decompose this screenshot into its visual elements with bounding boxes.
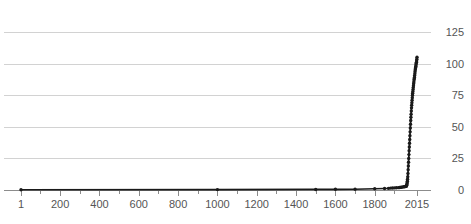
y-axis-tick-label: 50 — [452, 121, 464, 133]
x-axis-tick-label: 2015 — [405, 198, 429, 210]
x-axis-tick-label: 1600 — [323, 198, 347, 210]
data-point-marker — [216, 188, 219, 191]
data-point-marker — [408, 145, 411, 148]
data-point-marker — [407, 149, 410, 152]
data-point-marker — [353, 188, 356, 191]
data-point-marker — [409, 112, 412, 115]
data-point-marker — [408, 134, 411, 137]
data-point-marker — [407, 160, 410, 163]
data-point-marker — [409, 119, 412, 122]
chart-container: 0255075100125 12004006008001000120014001… — [0, 0, 471, 224]
y-axis-tick-label: 100 — [446, 58, 464, 70]
x-axis-tick-label: 400 — [90, 198, 108, 210]
data-series-line — [21, 57, 417, 189]
line-chart: 0255075100125 12004006008001000120014001… — [0, 0, 471, 224]
data-point-marker — [373, 187, 376, 190]
x-axis-tick-label: 1800 — [362, 198, 386, 210]
x-axis-tick-label: 200 — [51, 198, 69, 210]
y-axis-tick-label: 125 — [446, 26, 464, 38]
x-axis-tick-label: 1400 — [284, 198, 308, 210]
x-axis-tick-label: 1 — [18, 198, 24, 210]
data-point-marker — [406, 172, 409, 175]
data-point-marker — [408, 138, 411, 141]
data-point-marker — [334, 188, 337, 191]
y-axis-tick-label: 25 — [452, 152, 464, 164]
x-axis-tick-label: 800 — [169, 198, 187, 210]
x-axis-tick-label: 1000 — [205, 198, 229, 210]
data-point-marker — [406, 168, 409, 171]
data-point-marker — [406, 175, 409, 178]
data-point-marker — [407, 157, 410, 160]
data-point-markers-group — [19, 56, 418, 192]
data-point-marker — [415, 56, 418, 59]
data-point-marker — [407, 153, 410, 156]
data-point-marker — [409, 126, 412, 129]
y-axis-tick-label: 75 — [452, 89, 464, 101]
data-point-marker — [407, 164, 410, 167]
data-point-marker — [409, 116, 412, 119]
data-series-group — [21, 57, 417, 189]
data-point-marker — [408, 130, 411, 133]
x-axis-tick-label: 1200 — [245, 198, 269, 210]
data-point-marker — [409, 123, 412, 126]
data-point-marker — [383, 187, 386, 190]
y-axis-tick-labels-group: 0255075100125 — [446, 26, 464, 196]
x-axis-tick-labels-group: 1200400600800100012001400160018002015 — [18, 198, 429, 210]
data-point-marker — [408, 142, 411, 145]
gridlines-group — [4, 33, 431, 159]
y-axis-tick-label: 0 — [458, 184, 464, 196]
data-point-marker — [19, 188, 22, 191]
x-axis-ticks-group — [22, 191, 418, 196]
data-point-marker — [314, 188, 317, 191]
data-point-marker — [410, 109, 413, 112]
x-axis-tick-label: 600 — [130, 198, 148, 210]
